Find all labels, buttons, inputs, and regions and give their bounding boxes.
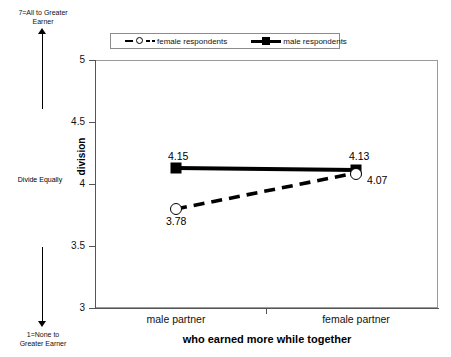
y-tick-label-5: 5	[45, 54, 85, 65]
data-label-female-male-partner: 3.78	[166, 215, 186, 227]
legend-item-female-respondents[interactable]: female respondents	[125, 36, 227, 46]
y-tick-label-3: 3	[45, 302, 85, 313]
y-tick-label-3-5: 3.5	[45, 240, 85, 251]
data-point-female-male-partner[interactable]	[170, 203, 182, 215]
scale-annotation-top: 7=All to Greater Earner	[0, 8, 86, 26]
legend-swatch-dashed-open-circle	[125, 36, 155, 46]
data-point-male-male-partner[interactable]	[171, 163, 182, 174]
data-point-female-female-partner[interactable]	[350, 168, 362, 180]
y-axis-line	[95, 60, 96, 309]
data-label-female-female-partner: 4.07	[367, 174, 387, 186]
x-tick-mark-center	[266, 308, 267, 314]
data-label-male-female-partner: 4.13	[349, 150, 369, 162]
x-axis-title: who earned more while together	[95, 333, 439, 345]
x-axis-line	[95, 308, 439, 309]
down-arrow-shaft-icon	[42, 247, 43, 323]
legend-label-female-respondents: female respondents	[157, 37, 227, 46]
legend-item-male-respondents[interactable]: male respondents	[251, 36, 347, 46]
chart-container: 7=All to Greater Earner Divide Equally 1…	[0, 0, 451, 357]
scale-annotation-bottom: 1=None to Greater Earner	[0, 330, 86, 348]
chart-legend: female respondents male respondents	[110, 33, 340, 49]
y-tick-mark-4-5	[89, 122, 95, 123]
y-tick-mark-3-5	[89, 246, 95, 247]
y-axis-title: division	[76, 122, 87, 192]
legend-swatch-solid-filled-square	[251, 36, 281, 46]
y-tick-mark-5	[89, 60, 95, 61]
up-arrow-shaft-icon	[42, 33, 43, 109]
y-tick-mark-4	[89, 184, 95, 185]
down-arrow-head-icon	[38, 321, 46, 327]
legend-label-male-respondents: male respondents	[283, 37, 347, 46]
x-tick-label-male-partner: male partner	[116, 313, 236, 325]
data-label-male-male-partner: 4.15	[168, 150, 188, 162]
y-tick-mark-3	[89, 308, 95, 309]
x-tick-label-female-partner: female partner	[296, 313, 416, 325]
